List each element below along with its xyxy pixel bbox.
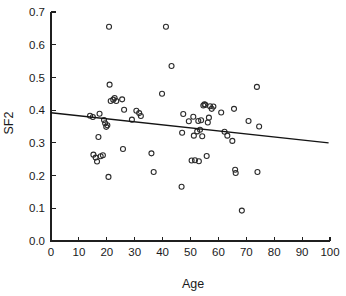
data-point	[107, 82, 112, 87]
data-point	[255, 169, 260, 174]
data-point	[120, 97, 125, 102]
x-tick-label: 60	[212, 246, 225, 258]
y-tick-label: 0.7	[29, 6, 45, 18]
data-points	[88, 24, 262, 213]
data-point	[200, 134, 205, 139]
x-tick-label: 70	[240, 246, 253, 258]
axis-spines	[51, 12, 330, 241]
data-point	[149, 151, 154, 156]
data-point	[151, 169, 156, 174]
y-tick-label: 0.3	[29, 137, 45, 149]
data-point	[96, 134, 101, 139]
data-point	[97, 111, 102, 116]
data-point	[206, 115, 211, 120]
x-tick-label: 50	[184, 246, 197, 258]
x-tick-label: 40	[156, 246, 169, 258]
data-point	[239, 208, 244, 213]
data-point	[204, 153, 209, 158]
data-point	[254, 84, 259, 89]
plot-canvas: 0102030405060708090100 0.00.10.20.30.40.…	[0, 0, 346, 296]
data-point	[191, 114, 196, 119]
y-axis-label: SF2	[2, 111, 16, 134]
regression-line	[51, 113, 329, 143]
y-tick-label: 0.1	[29, 202, 45, 214]
trend-line	[51, 113, 329, 143]
data-point	[179, 184, 184, 189]
data-point	[120, 147, 125, 152]
x-tick-label: 20	[100, 246, 113, 258]
x-tick-label: 10	[73, 246, 86, 258]
data-point	[106, 174, 111, 179]
x-axis-tick-labels: 0102030405060708090100	[48, 246, 340, 258]
axis-ticks	[51, 12, 330, 241]
scatter-plot-figure: 0102030405060708090100 0.00.10.20.30.40.…	[0, 0, 346, 296]
y-tick-label: 0.2	[29, 170, 45, 182]
data-point	[180, 130, 185, 135]
data-point	[181, 112, 186, 117]
data-point	[233, 170, 238, 175]
data-point	[219, 110, 224, 115]
data-point	[230, 138, 235, 143]
data-point	[246, 118, 251, 123]
axes	[51, 12, 330, 241]
y-tick-label: 0.6	[29, 39, 45, 51]
data-point	[257, 124, 262, 129]
data-point	[107, 24, 112, 29]
data-point	[160, 91, 165, 96]
y-tick-label: 0.0	[29, 235, 45, 247]
data-point	[169, 63, 174, 68]
x-axis-label: Age	[182, 277, 204, 291]
y-axis-tick-labels: 0.00.10.20.30.40.50.60.7	[29, 6, 46, 247]
data-point	[205, 120, 210, 125]
y-tick-label: 0.4	[29, 104, 46, 116]
x-tick-label: 90	[296, 246, 309, 258]
x-tick-label: 0	[48, 246, 54, 258]
y-tick-label: 0.5	[29, 72, 45, 84]
data-point	[163, 24, 168, 29]
x-tick-label: 30	[128, 246, 141, 258]
x-tick-label: 100	[320, 246, 339, 258]
data-point	[122, 107, 127, 112]
x-tick-label: 80	[268, 246, 281, 258]
data-point	[186, 119, 191, 124]
data-point	[225, 133, 230, 138]
data-point	[232, 106, 237, 111]
